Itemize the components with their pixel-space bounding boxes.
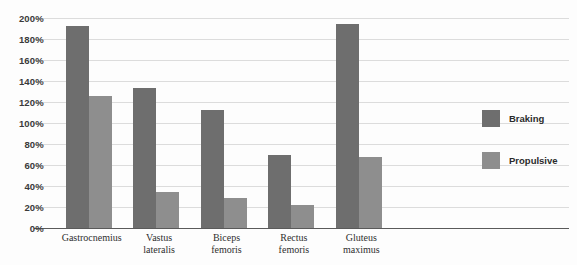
bar-group	[66, 0, 112, 229]
bar-groups	[58, 0, 395, 229]
y-axis-tick-label: 80%	[24, 139, 44, 150]
bar	[66, 26, 89, 228]
y-axis-tick-label: 180%	[19, 34, 44, 45]
bar	[359, 157, 382, 228]
legend-item: Braking	[482, 106, 574, 130]
legend-item: Propulsive	[482, 148, 574, 172]
bar	[268, 155, 291, 229]
y-axis-tick-label: 60%	[24, 160, 44, 171]
legend-label: Propulsive	[509, 155, 558, 166]
bar	[224, 198, 247, 228]
legend-label: Braking	[509, 113, 544, 124]
bar	[89, 96, 112, 228]
y-axis-tick-label: 200%	[19, 13, 44, 24]
bar-group	[133, 0, 179, 229]
y-axis-tick-label: 160%	[19, 55, 44, 66]
bar-chart: 200%180%160%140%120%100%80%60%40%20%0% G…	[0, 0, 577, 265]
y-axis: 200%180%160%140%120%100%80%60%40%20%0%	[0, 0, 52, 265]
x-axis: GastrocnemiusVastuslateralisBicepsfemori…	[58, 232, 395, 265]
y-axis-tick-label: 20%	[24, 202, 44, 213]
y-axis-tick-label: 140%	[19, 76, 44, 87]
bar	[336, 24, 359, 228]
bar	[156, 192, 179, 228]
bar	[201, 110, 224, 228]
y-axis-tick-label: 40%	[24, 181, 44, 192]
bar-group	[201, 0, 247, 229]
y-axis-tick-label: 120%	[19, 97, 44, 108]
x-axis-tick-label: Gluteusmaximus	[314, 232, 409, 255]
y-axis-tick-label: 0%	[30, 223, 44, 234]
bar	[133, 88, 156, 228]
legend-swatch	[482, 110, 500, 127]
bar	[291, 205, 314, 228]
bar-group	[336, 0, 382, 229]
chart-legend: BrakingPropulsive	[482, 106, 574, 190]
legend-swatch	[482, 152, 500, 169]
bar-group	[268, 0, 314, 229]
y-axis-tick-label: 100%	[19, 118, 44, 129]
